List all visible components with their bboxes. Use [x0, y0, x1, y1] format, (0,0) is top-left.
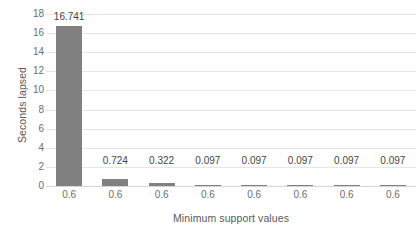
y-axis-tick: 12: [33, 66, 44, 76]
bar[interactable]: [334, 185, 360, 187]
y-axis-tick: 0: [38, 181, 44, 191]
bar[interactable]: [56, 26, 82, 186]
y-axis-tick: 2: [38, 162, 44, 172]
x-axis-tick: 0.6: [155, 190, 169, 200]
y-axis-tick: 16: [33, 28, 44, 38]
bar-slot: 0.097: [277, 14, 323, 186]
bar-series: 16.7410.7240.3220.0970.0970.0970.0970.09…: [46, 14, 416, 186]
x-axis-tick: 0.6: [340, 190, 354, 200]
x-axis-tick-labels: 0.60.60.60.60.60.60.60.6: [46, 190, 416, 206]
axis-baseline: [46, 186, 416, 187]
bar-slot: 0.724: [92, 14, 138, 186]
bar-data-label: 0.322: [149, 156, 174, 166]
y-axis-tick-labels: 024681012141618: [22, 14, 44, 186]
x-axis-tick: 0.6: [201, 190, 215, 200]
bar-slot: 16.741: [46, 14, 92, 186]
y-axis-tick: 4: [38, 143, 44, 153]
x-axis-tick: 0.6: [247, 190, 261, 200]
bar-slot: 0.097: [185, 14, 231, 186]
bar-slot: 0.097: [231, 14, 277, 186]
bar-slot: 0.322: [139, 14, 185, 186]
x-axis-tick: 0.6: [293, 190, 307, 200]
bar-chart: Seconds lapsed 024681012141618 16.7410.7…: [0, 0, 416, 238]
bar-data-label: 0.097: [195, 156, 220, 166]
bar-data-label: 0.097: [334, 156, 359, 166]
bar[interactable]: [149, 183, 175, 186]
bar[interactable]: [380, 185, 406, 187]
x-axis-tick: 0.6: [108, 190, 122, 200]
bar[interactable]: [241, 185, 267, 187]
bar-data-label: 0.724: [103, 156, 128, 166]
bar[interactable]: [195, 185, 221, 187]
bar[interactable]: [287, 185, 313, 187]
bar[interactable]: [102, 179, 128, 186]
x-axis-tick: 0.6: [386, 190, 400, 200]
x-axis-title: Minimum support values: [46, 212, 416, 224]
x-axis-tick: 0.6: [62, 190, 76, 200]
bar-slot: 0.097: [370, 14, 416, 186]
y-axis-tick: 8: [38, 105, 44, 115]
plot-area: 16.7410.7240.3220.0970.0970.0970.0970.09…: [46, 14, 416, 186]
bar-slot: 0.097: [324, 14, 370, 186]
y-axis-tick: 6: [38, 124, 44, 134]
bar-data-label: 16.741: [54, 12, 85, 22]
y-axis-tick: 14: [33, 47, 44, 57]
bar-data-label: 0.097: [242, 156, 267, 166]
bar-data-label: 0.097: [288, 156, 313, 166]
y-axis-tick: 18: [33, 9, 44, 19]
bar-data-label: 0.097: [380, 156, 405, 166]
y-axis-tick: 10: [33, 85, 44, 95]
